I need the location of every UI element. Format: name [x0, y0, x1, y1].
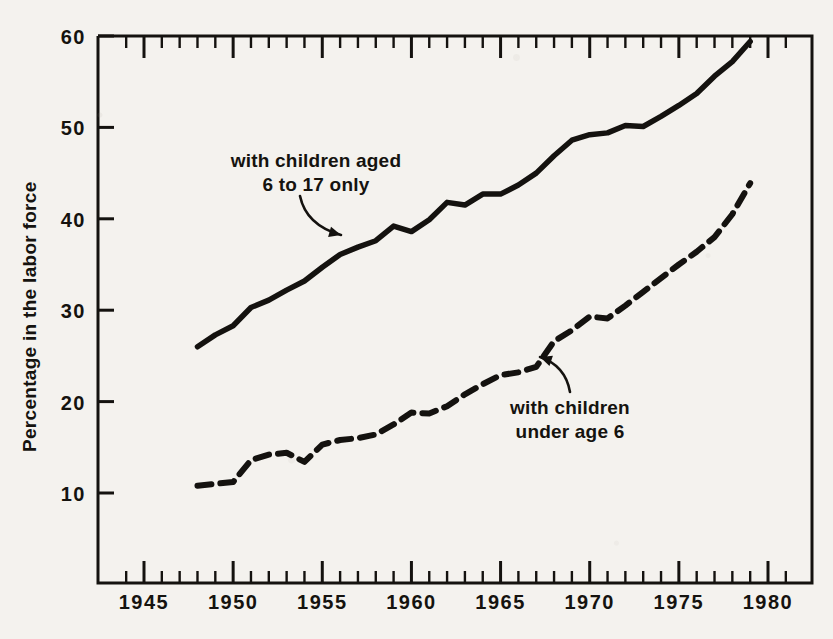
ann-school-age-line1: with children aged: [230, 150, 401, 171]
y-tick-label-50: 50: [61, 117, 86, 139]
chart-figure: 102030405060 194519501955196019651970197…: [0, 0, 833, 639]
y-tick-label-10: 10: [61, 483, 86, 505]
x-tick-label-1975: 1975: [654, 591, 705, 613]
x-axis-tick-labels: 19451950195519601965197019751980: [119, 591, 794, 613]
x-tick-label-1965: 1965: [475, 591, 526, 613]
x-tick-label-1980: 1980: [743, 591, 794, 613]
line-chart-svg: 102030405060 194519501955196019651970197…: [0, 0, 833, 639]
y-tick-label-30: 30: [61, 300, 86, 322]
ann-school-age: with children aged6 to 17 only: [230, 150, 401, 237]
x-axis-ticks: [126, 36, 786, 583]
x-tick-label-1955: 1955: [297, 591, 348, 613]
ann-school-age-leader-line: [300, 196, 341, 235]
y-tick-label-60: 60: [61, 26, 86, 48]
y-tick-label-20: 20: [61, 392, 86, 414]
x-tick-label-1945: 1945: [119, 591, 170, 613]
y-axis-title: Percentage in the labor force: [19, 181, 40, 452]
x-tick-label-1960: 1960: [386, 591, 437, 613]
series-layer: [197, 41, 750, 485]
ann-preschool-leader-line: [540, 357, 570, 392]
y-tick-label-40: 40: [61, 209, 86, 231]
x-tick-label-1950: 1950: [208, 591, 259, 613]
y-axis-ticks: [98, 36, 114, 493]
plot-frame: [98, 36, 812, 583]
ann-preschool-arrow-head-icon: [540, 356, 553, 366]
ann-preschool-line1: with children: [509, 397, 630, 418]
x-tick-label-1970: 1970: [564, 591, 615, 613]
ann-school-age-line2: 6 to 17 only: [263, 174, 370, 195]
y-axis-tick-labels: 102030405060: [61, 26, 86, 505]
series-line-preschool: [197, 183, 750, 486]
annotation-layer: with children aged6 to 17 onlywith child…: [230, 150, 630, 442]
ann-preschool-line2: under age 6: [516, 421, 625, 442]
